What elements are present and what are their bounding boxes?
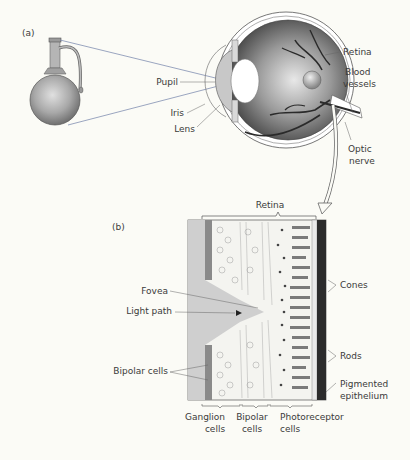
ganglion-cells-label-1: Ganglion [180,412,230,423]
light-path-label: Light path [100,306,172,317]
fovea-label: Fovea [110,286,168,297]
lens-label: Lens [160,124,195,135]
pupil-label: Pupil [140,77,178,88]
retina-bracket-label: Retina [240,200,300,211]
panel-a-label: (a) [22,28,35,39]
bipolar-bottom-label-2: cells [230,424,274,435]
photoreceptor-label-2: cells [280,424,300,435]
jug-icon [30,38,83,125]
retina-label: Retina [343,47,372,58]
panel-b-label: (b) [112,222,125,233]
cones-label: Cones [340,280,368,291]
photoreceptor-label-1: Photoreceptor [280,412,344,423]
rods-label: Rods [340,351,362,362]
optic-nerve-label-1: Optic [348,144,372,155]
bipolar-cells-label: Bipolar cells [90,366,168,377]
pigmented-label-1: Pigmented [340,379,388,390]
optic-nerve-label-2: nerve [349,156,375,167]
blood-vessels-label-2: vessels [343,79,376,90]
bipolar-bottom-label-1: Bipolar [230,412,274,423]
pigmented-label-2: epithelium [340,391,388,402]
retina-cross-section [188,220,326,400]
blood-vessels-label-1: Blood [345,67,370,78]
iris-label: Iris [160,108,184,119]
eyeball [205,12,362,214]
